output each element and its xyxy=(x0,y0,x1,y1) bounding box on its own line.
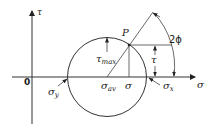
mohr-circle-diagram: τ σ 0 P τmax σav σ τ σx σy 2ϕ xyxy=(0,0,211,128)
sigma-y-label: σy xyxy=(48,86,60,99)
tau-max-label: τmax xyxy=(96,53,116,66)
origin-label: 0 xyxy=(24,77,30,87)
tau-label: τ xyxy=(151,54,157,65)
sigma-x-label: σx xyxy=(163,80,174,93)
sigma-x-pointer xyxy=(149,78,160,85)
sigma-av-label: σav xyxy=(101,80,116,93)
sigma-label: σ xyxy=(125,80,133,91)
point-p-label: P xyxy=(121,27,129,38)
angle-label: 2ϕ xyxy=(169,34,182,45)
sigma-y-pointer xyxy=(58,79,67,86)
tau-axis-label: τ xyxy=(37,7,43,17)
point-p xyxy=(128,44,131,47)
sigma-axis-label: σ xyxy=(197,79,205,90)
